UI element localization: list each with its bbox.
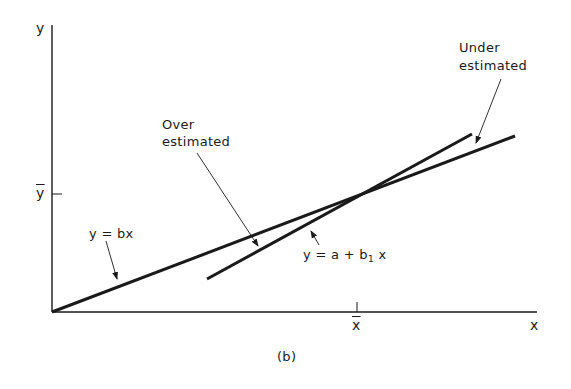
y-axis-label: y: [36, 21, 45, 36]
under-estimated-line1: Under: [459, 40, 500, 55]
label-y-equals-bx: y = bx: [89, 226, 134, 241]
arrow-a-b1x-label-icon: [311, 231, 319, 245]
figure-caption: (b): [277, 349, 296, 364]
label-y-equals-a-plus-b1x: y = a + b1 x: [303, 247, 386, 264]
x-axis-label: x: [530, 318, 539, 333]
x-mean-label: x: [352, 318, 361, 333]
arrow-over-estimated-icon: [197, 153, 258, 246]
equation-prefix: y = a + b: [303, 247, 368, 262]
over-estimated-line1: Over: [162, 117, 194, 132]
line-y-equals-bx: [52, 136, 515, 312]
equation-subscript: 1: [368, 254, 374, 264]
regression-diagram: y y x x y = bx y = a + b1 x Over estimat…: [0, 0, 571, 389]
equation-suffix: x: [378, 247, 386, 262]
over-estimated-line2: estimated: [162, 134, 230, 149]
arrow-bx-label-icon: [106, 241, 117, 279]
y-mean-label: y: [36, 186, 45, 201]
under-estimated-line2: estimated: [459, 58, 527, 73]
arrow-under-estimated-icon: [476, 79, 501, 143]
